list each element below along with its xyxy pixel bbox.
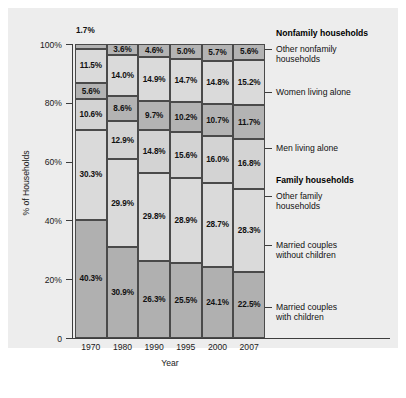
bar-segment-value-label: 29.8% <box>143 212 166 221</box>
legend-item-label: Women living alone <box>276 87 351 97</box>
stacked-bar-plot-area: 40.3%30.3%10.6%5.6%11.5%1.7%30.9%29.9%12… <box>75 44 265 338</box>
y-tick-60: 60% <box>66 162 73 163</box>
legend-heading-family: Family households <box>276 175 354 185</box>
bar-segment-value-label: 26.3% <box>143 295 166 304</box>
bar-segment-value-label: 29.9% <box>111 199 134 208</box>
y-axis-line <box>72 44 73 339</box>
bar-segment[interactable]: 14.9% <box>138 57 170 101</box>
bar-segment-value-label: 10.7% <box>206 116 229 125</box>
legend-item-married-with-children: Married couples with children <box>265 302 337 322</box>
legend-item-other-nonfamily: Other nonfamily households <box>265 44 337 64</box>
legend-leader-line-icon <box>265 307 272 308</box>
bar-segment[interactable]: 4.6% <box>138 44 170 58</box>
legend-leader-line-icon <box>265 245 272 246</box>
legend-leader-line-icon <box>265 148 272 149</box>
bar-segment-value-label: 12.9% <box>111 136 134 145</box>
bar-segment[interactable]: 5.0% <box>170 44 202 59</box>
bar-segment-value-label: 16.8% <box>238 159 261 168</box>
bar-segment-value-label: 4.6% <box>145 46 163 55</box>
bar-segment[interactable]: 9.7% <box>138 101 170 130</box>
legend-heading-nonfamily: Nonfamily households <box>276 28 368 38</box>
legend-item-other-family: Other family households <box>265 191 322 211</box>
bar-segment-value-label: 5.6% <box>240 47 258 56</box>
y-tick-40: 40% <box>66 220 73 221</box>
bar-segment-value-label: 22.5% <box>238 300 261 309</box>
y-tick-label-100: 100% <box>40 40 62 50</box>
y-tick-20: 20% <box>66 279 73 280</box>
bar-segment-value-label: 14.7% <box>174 76 197 85</box>
bar-column-2007[interactable]: 22.5%28.3%16.8%11.7%15.2%5.6% <box>233 44 265 338</box>
bar-segment-value-label: 3.6% <box>113 45 131 54</box>
bar-segment[interactable]: 30.9% <box>107 247 139 338</box>
bar-segment[interactable]: 22.5% <box>233 272 265 338</box>
legend-item-label: Married couples with children <box>276 302 337 322</box>
x-tick-label-2000: 2000 <box>202 342 234 352</box>
bar-segment[interactable]: 26.3% <box>138 261 170 338</box>
y-axis-title: % of Households <box>21 151 31 216</box>
y-tick-100: 100% <box>66 44 73 45</box>
bar-segment-value-label: 15.2% <box>238 78 261 87</box>
bar-column-2000[interactable]: 24.1%28.7%16.0%10.7%14.8%5.7% <box>202 44 234 338</box>
bar-segment[interactable]: 11.7% <box>233 105 265 139</box>
bar-segment[interactable]: 15.2% <box>233 60 265 105</box>
bar-segment-value-label: 14.0% <box>111 71 134 80</box>
bar-segment-value-label: 14.8% <box>143 147 166 156</box>
bar-segment-value-label: 11.5% <box>80 61 102 70</box>
y-tick-label-60: 60% <box>45 157 62 167</box>
bar-segment-value-label: 24.1% <box>206 298 229 307</box>
bar-segment[interactable]: 5.7% <box>202 44 234 61</box>
x-tick-label-1995: 1995 <box>170 342 202 352</box>
bar-segment[interactable]: 28.3% <box>233 189 265 272</box>
bar-segment[interactable]: 16.0% <box>202 136 234 183</box>
bar-segment-value-label: 10.2% <box>174 113 197 122</box>
bar-segment[interactable]: 5.6% <box>75 83 107 99</box>
bar-segment[interactable]: 1.7% <box>75 44 107 49</box>
bar-segment-value-label: 25.5% <box>174 296 197 305</box>
bar-segment-value-label: 14.8% <box>206 78 229 87</box>
bar-column-1980[interactable]: 30.9%29.9%12.9%8.6%14.0%3.6% <box>107 44 139 338</box>
bar-segment[interactable]: 40.3% <box>75 220 107 338</box>
bar-column-1995[interactable]: 25.5%28.9%15.6%10.2%14.7%5.0% <box>170 44 202 338</box>
bar-segment[interactable]: 30.3% <box>75 130 107 219</box>
bar-segment[interactable]: 10.7% <box>202 104 234 135</box>
bar-segment[interactable]: 16.8% <box>233 139 265 188</box>
bar-segment[interactable]: 10.2% <box>170 102 202 132</box>
x-tick-label-1980: 1980 <box>107 342 139 352</box>
bar-segment-value-label: 14.9% <box>143 75 166 84</box>
bar-segment[interactable]: 11.5% <box>75 49 107 83</box>
legend-item-label: Other family households <box>276 191 322 211</box>
bar-segment[interactable]: 8.6% <box>107 96 139 121</box>
y-tick-label-80: 80% <box>45 98 62 108</box>
bar-segment-value-label: 15.6% <box>174 151 197 160</box>
bar-segment[interactable]: 28.7% <box>202 183 234 267</box>
bar-segment[interactable]: 14.0% <box>107 55 139 96</box>
bar-segment[interactable]: 29.8% <box>138 173 170 261</box>
bar-segment[interactable]: 28.9% <box>170 178 202 263</box>
bar-segment-value-label: 30.9% <box>111 288 134 297</box>
bar-segment[interactable]: 5.6% <box>233 44 265 60</box>
legend-leader-line-icon <box>265 49 272 50</box>
x-axis-title: Year <box>75 358 265 368</box>
bar-segment[interactable]: 14.8% <box>202 61 234 105</box>
bar-segment[interactable]: 25.5% <box>170 263 202 338</box>
legend-item-women-living-alone: Women living alone <box>265 87 351 97</box>
bar-segment-value-label: 11.7% <box>238 118 260 127</box>
bar-segment[interactable]: 10.6% <box>75 99 107 130</box>
bar-segment[interactable]: 15.6% <box>170 132 202 178</box>
bar-segment-value-label: 40.3% <box>79 274 102 283</box>
bar-segment-value-label: 5.0% <box>177 47 195 56</box>
bar-segment[interactable]: 3.6% <box>107 44 139 55</box>
y-tick-label-0: 0 <box>57 334 62 344</box>
bar-segment-value-label: 30.3% <box>79 170 102 179</box>
y-tick-80: 80% <box>66 103 73 104</box>
bar-segment[interactable]: 14.8% <box>138 130 170 174</box>
bar-segment[interactable]: 12.9% <box>107 121 139 159</box>
bar-segment[interactable]: 29.9% <box>107 159 139 247</box>
bar-column-1970[interactable]: 40.3%30.3%10.6%5.6%11.5%1.7% <box>75 44 107 338</box>
bar-segment[interactable]: 14.7% <box>170 59 202 102</box>
bar-column-1990[interactable]: 26.3%29.8%14.8%9.7%14.9%4.6% <box>138 44 170 338</box>
legend-item-men-living-alone: Men living alone <box>265 143 338 153</box>
bar-segment-value-label: 9.7% <box>145 111 163 120</box>
bar-segment[interactable]: 24.1% <box>202 267 234 338</box>
x-tick-label-1970: 1970 <box>75 342 107 352</box>
